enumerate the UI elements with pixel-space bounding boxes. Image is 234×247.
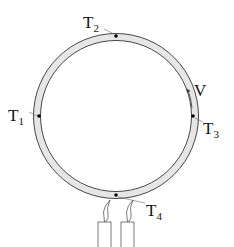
candle-left — [98, 200, 111, 247]
label-t3: T3 — [203, 119, 219, 140]
label-t2: T2 — [83, 13, 99, 34]
point-t3 — [191, 114, 195, 118]
ring-tube-diagram: T2 T1 T3 T4 V — [0, 0, 234, 247]
candle-right — [121, 200, 134, 247]
point-t2 — [114, 34, 118, 38]
label-t4: T4 — [146, 201, 162, 222]
point-t4 — [114, 193, 118, 197]
label-t1: T1 — [8, 106, 24, 127]
diagram-canvas: T2 T1 T3 T4 V — [0, 0, 234, 247]
flame-icon — [104, 200, 111, 222]
point-t1 — [37, 114, 41, 118]
tube-inner-wall — [41, 41, 192, 192]
leader-t2 — [104, 29, 114, 34]
label-velocity: V — [194, 81, 207, 100]
flame-icon — [127, 200, 134, 222]
tube-fill — [37, 37, 195, 195]
